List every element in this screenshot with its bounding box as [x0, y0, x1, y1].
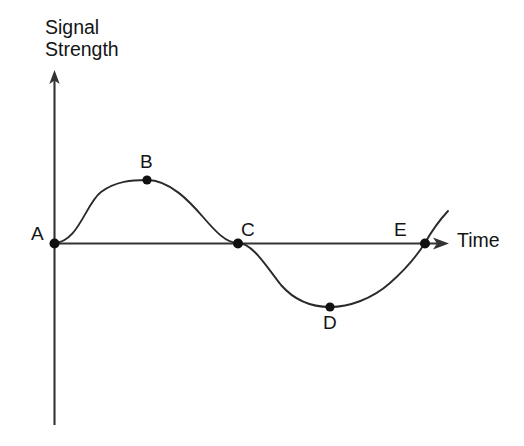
point-label-a: A [31, 224, 44, 243]
point-label-b: B [140, 152, 153, 171]
point-label-e: E [394, 220, 407, 239]
point-marker-c [233, 239, 243, 249]
point-marker-d [325, 302, 334, 311]
signal-strength-time-graph: Signal Strength Time A B C D E [0, 0, 524, 446]
point-label-c: C [241, 220, 255, 239]
point-marker-b [142, 175, 151, 184]
point-marker-a [50, 239, 60, 249]
x-axis-title: Time [457, 230, 500, 252]
y-axis-title: Signal Strength [45, 17, 119, 60]
point-marker-e [420, 239, 430, 249]
point-label-d: D [323, 313, 337, 332]
